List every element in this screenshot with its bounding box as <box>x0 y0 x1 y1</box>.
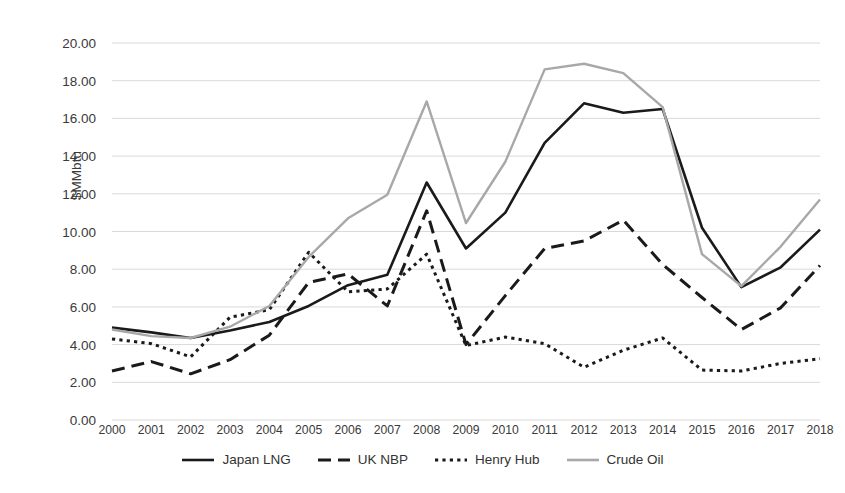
legend-item-uk-nbp[interactable]: UK NBP <box>317 452 408 467</box>
x-tick-label-2008: 2008 <box>413 423 440 437</box>
legend-item-crude-oil[interactable]: Crude Oil <box>566 452 664 467</box>
legend-item-henry-hub[interactable]: Henry Hub <box>434 452 540 467</box>
dashed-black-line-icon <box>317 454 351 466</box>
x-tick-label-2009: 2009 <box>452 423 479 437</box>
x-tick-label-2017: 2017 <box>767 423 794 437</box>
legend-label: UK NBP <box>358 452 408 467</box>
solid-black-line-icon <box>181 454 215 466</box>
legend-label: Japan LNG <box>222 452 290 467</box>
x-tick-label-2015: 2015 <box>688 423 715 437</box>
legend-label: Henry Hub <box>475 452 540 467</box>
x-tick-label-2006: 2006 <box>334 423 361 437</box>
x-tick-label-2002: 2002 <box>177 423 204 437</box>
x-tick-label-2010: 2010 <box>492 423 519 437</box>
chart-legend: Japan LNGUK NBPHenry HubCrude Oil <box>0 452 845 467</box>
x-tick-label-2012: 2012 <box>570 423 597 437</box>
x-axis-tick-labels: 2000200120022003200420052006200720082009… <box>0 0 845 493</box>
x-tick-label-2011: 2011 <box>532 423 558 437</box>
x-tick-label-2016: 2016 <box>728 423 755 437</box>
x-tick-label-2003: 2003 <box>216 423 243 437</box>
x-tick-label-2018: 2018 <box>806 423 833 437</box>
x-tick-label-2004: 2004 <box>256 423 283 437</box>
x-tick-label-2001: 2001 <box>138 423 165 437</box>
legend-item-japan-lng[interactable]: Japan LNG <box>181 452 290 467</box>
price-comparison-line-chart: $MMbtu 0.002.004.006.008.0010.0012.0014.… <box>0 0 845 493</box>
x-tick-label-2000: 2000 <box>98 423 125 437</box>
x-tick-label-2014: 2014 <box>649 423 676 437</box>
dotted-black-line-icon <box>434 454 468 466</box>
x-tick-label-2013: 2013 <box>610 423 637 437</box>
legend-label: Crude Oil <box>607 452 664 467</box>
solid-gray-line-icon <box>566 454 600 466</box>
x-tick-label-2007: 2007 <box>374 423 401 437</box>
x-tick-label-2005: 2005 <box>295 423 322 437</box>
